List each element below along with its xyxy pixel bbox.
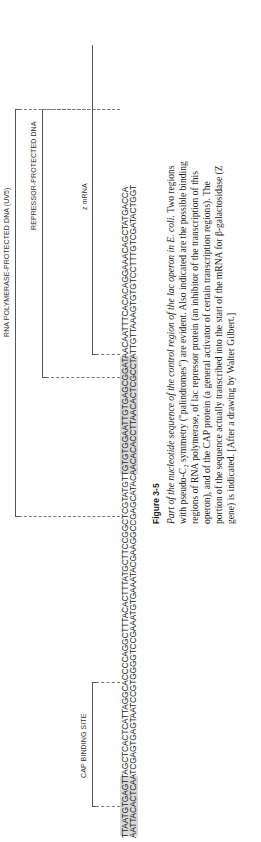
figure-number: Figure 3-5 [150, 154, 162, 524]
cap-dash-left [96, 806, 120, 807]
cap-dash-right [96, 682, 120, 683]
repressor-bracket-line [42, 110, 43, 378]
caption-italic-lead: Part of the nucleotide sequence of the c… [165, 215, 176, 524]
rna-polymerase-label: RNA POLYMERASE-PROTECTED DNA (UV5) [3, 187, 10, 337]
figure-caption: Figure 3-5 Part of the nucleotide sequen… [150, 154, 237, 524]
rna-polymerase-bracket-line [15, 110, 16, 517]
z-mrna-label: z mRNA [81, 183, 88, 210]
dna-bottom-strand: AATTACACTCAATCGAGTGAGTAATCCGTGGGGTCCGAAA… [129, 185, 137, 838]
repressor-dash-left [46, 377, 120, 378]
cap-bracket-line [92, 683, 93, 807]
figure-canvas: TTAATGTGAGTTAGCTCACTCATTAGGCACCCCAGGCTTT… [0, 0, 261, 842]
rna-pol-dash-left [19, 516, 120, 517]
caption-italic-text: Part of the nucleotide sequence of the c… [165, 215, 176, 524]
repressor-label: REPRESSOR-PROTECTED DNA [30, 122, 37, 230]
cap-binding-site-label: CAP BINDING SITE [80, 714, 87, 778]
z-mrna-dash [96, 354, 120, 355]
repressor-dash-right [42, 109, 120, 110]
z-mrna-line [92, 45, 93, 355]
